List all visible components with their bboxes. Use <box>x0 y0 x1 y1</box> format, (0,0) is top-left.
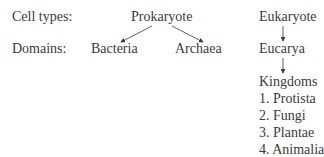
node-prokaryote: Prokaryote <box>131 10 192 24</box>
node-bacteria: Bacteria <box>91 42 138 56</box>
kingdom-item: 1. Protista <box>259 92 316 106</box>
cell-types-label: Cell types: <box>12 10 72 24</box>
kingdom-item: 4. Animalia <box>259 143 324 157</box>
domains-label: Domains: <box>12 42 66 56</box>
node-archaea: Archaea <box>175 42 222 56</box>
node-kingdoms: Kingdoms <box>259 75 317 89</box>
node-eucarya: Eucarya <box>259 42 305 56</box>
node-eukaryote: Eukaryote <box>259 10 317 24</box>
kingdom-item: 2. Fungi <box>259 109 306 123</box>
arrow-prokaryote-archaea <box>172 26 203 42</box>
arrow-prokaryote-bacteria <box>121 26 152 42</box>
kingdom-item: 3. Plantae <box>259 126 314 140</box>
